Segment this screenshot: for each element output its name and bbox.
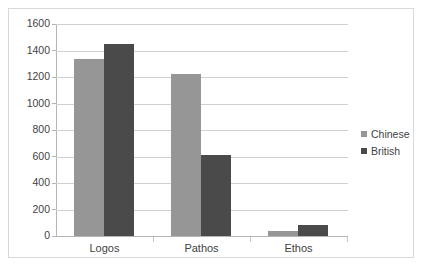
y-tick-label: 200: [10, 204, 50, 215]
y-tick-label: 600: [10, 151, 50, 162]
y-axis-tick-labels: 1600 1400 1200 1000 800 600 400 200 0: [9, 9, 50, 259]
chart-legend: Chinese British: [361, 125, 419, 159]
bar-group-ethos: [268, 24, 328, 236]
chart-frame: 1600 1400 1200 1000 800 600 400 200 0: [8, 8, 414, 258]
legend-swatch-icon: [361, 131, 367, 137]
legend-label-chinese: Chinese: [371, 128, 410, 140]
plot-area: [56, 24, 348, 236]
category-label-ethos: Ethos: [250, 242, 347, 255]
y-tick-label: 1200: [10, 71, 50, 82]
bar-pathos-british[interactable]: [201, 155, 231, 237]
legend-item-british[interactable]: British: [361, 142, 419, 159]
bar-ethos-british[interactable]: [298, 225, 328, 236]
y-tick-label: 1400: [10, 45, 50, 56]
y-tick-label: 1600: [10, 18, 50, 29]
bar-pathos-chinese[interactable]: [171, 74, 201, 236]
legend-item-chinese[interactable]: Chinese: [361, 125, 419, 142]
category-label-logos: Logos: [56, 242, 153, 255]
bar-group-pathos: [171, 24, 231, 236]
y-tick-label: 1000: [10, 98, 50, 109]
bar-logos-chinese[interactable]: [74, 59, 104, 237]
bar-group-logos: [74, 24, 134, 236]
bar-logos-british[interactable]: [104, 44, 134, 236]
legend-label-british: British: [371, 145, 400, 157]
y-tick-label: 800: [10, 124, 50, 135]
category-label-pathos: Pathos: [153, 242, 250, 255]
bar-ethos-chinese[interactable]: [268, 231, 298, 236]
y-tick-label: 400: [10, 177, 50, 188]
legend-swatch-icon: [361, 148, 367, 154]
y-tick-label: 0: [10, 230, 50, 241]
category-divider: [347, 237, 348, 242]
gridline-baseline: [56, 236, 348, 237]
